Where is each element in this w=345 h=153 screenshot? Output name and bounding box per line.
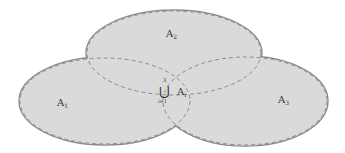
set-fills	[20, 11, 328, 146]
set-a3-fill	[163, 57, 328, 146]
union-lower-limit: i=1	[158, 98, 167, 104]
union-symbol: ⋃	[159, 84, 170, 99]
union-upper-limit: 3	[163, 77, 166, 83]
venn-diagram: A1 A2 A3 3 ⋃ i=1 Ai	[0, 0, 345, 153]
